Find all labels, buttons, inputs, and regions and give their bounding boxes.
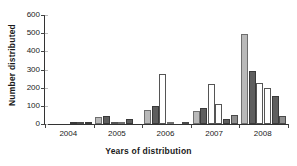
bar [193, 111, 200, 124]
bar [70, 122, 77, 124]
x-axis-tick [191, 124, 192, 128]
plot-area: 0100200300400500600 [44, 15, 288, 125]
y-axis-label: 500 [27, 29, 40, 37]
x-axis-tick [94, 124, 95, 128]
bar [264, 88, 271, 124]
bar [272, 96, 279, 124]
y-axis-gridmark [45, 88, 48, 89]
x-axis-label: 2006 [157, 129, 175, 138]
y-axis-label: 600 [27, 11, 40, 19]
bar [256, 83, 263, 124]
x-axis-tick [239, 124, 240, 128]
bar [200, 108, 207, 124]
y-axis-gridmark [45, 106, 48, 107]
y-axis-label: 0 [36, 120, 40, 128]
y-axis-title: Number distributed [7, 6, 17, 124]
bar [159, 74, 166, 125]
x-axis-label: 2005 [108, 129, 126, 138]
x-axis-label: 2008 [254, 129, 272, 138]
y-axis-gridmark [45, 15, 48, 16]
bar [215, 104, 222, 124]
x-axis-title: Years of distribution [0, 146, 297, 156]
y-axis-gridmark [45, 33, 48, 34]
bar [103, 116, 110, 124]
x-axis-tick [45, 124, 46, 128]
y-axis-label: 200 [27, 84, 40, 92]
bar [208, 84, 215, 124]
bar [182, 122, 189, 124]
bar [249, 71, 256, 124]
x-axis-tick [142, 124, 143, 128]
bar [95, 117, 102, 124]
bar [111, 122, 118, 124]
bar [223, 119, 230, 124]
y-axis-label: 300 [27, 66, 40, 74]
x-axis-label: 2004 [59, 129, 77, 138]
bar [126, 119, 133, 124]
y-axis-gridmark [45, 70, 48, 71]
y-axis-gridmark [45, 51, 48, 52]
bar [152, 106, 159, 124]
bar [144, 110, 151, 124]
y-axis-label: 400 [27, 47, 40, 55]
y-axis-label: 100 [27, 102, 40, 110]
bar [77, 122, 84, 124]
bar [85, 122, 92, 124]
bar [279, 116, 286, 124]
x-axis-label: 2007 [205, 129, 223, 138]
bar [118, 122, 125, 124]
bar-chart: Number distributed 0100200300400500600 Y… [0, 0, 297, 166]
bar [231, 115, 238, 124]
x-axis-tick [288, 124, 289, 128]
bar [241, 34, 248, 124]
bar [167, 122, 174, 124]
